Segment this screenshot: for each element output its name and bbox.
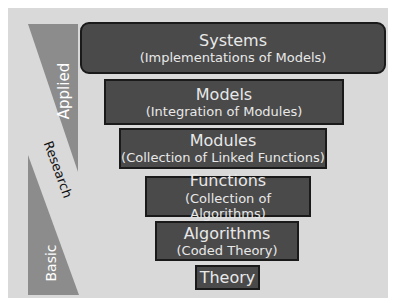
level-title: Systems — [199, 31, 267, 50]
level-title: Modules — [190, 131, 257, 150]
level-functions: Functions (Collection of Algorithms) — [145, 176, 311, 217]
level-models: Models (Integration of Modules) — [104, 79, 344, 125]
level-subtitle: (Integration of Modules) — [146, 104, 303, 120]
basic-label: Basic — [43, 238, 59, 288]
level-systems: Systems (Implementations of Models) — [80, 22, 386, 74]
level-title: Algorithms — [184, 224, 271, 243]
level-title: Theory — [200, 268, 256, 287]
level-modules: Modules (Collection of Linked Functions) — [119, 128, 327, 169]
applied-label: Applied — [55, 61, 73, 121]
level-subtitle: (Collection of Linked Functions) — [121, 150, 325, 166]
level-algorithms: Algorithms (Coded Theory) — [155, 221, 299, 261]
level-title: Functions — [190, 171, 266, 190]
level-subtitle: (Coded Theory) — [177, 243, 278, 259]
level-subtitle: (Collection of Algorithms) — [147, 191, 309, 222]
level-title: Models — [196, 85, 252, 104]
level-theory: Theory — [195, 265, 260, 290]
level-subtitle: (Implementations of Models) — [140, 50, 327, 66]
